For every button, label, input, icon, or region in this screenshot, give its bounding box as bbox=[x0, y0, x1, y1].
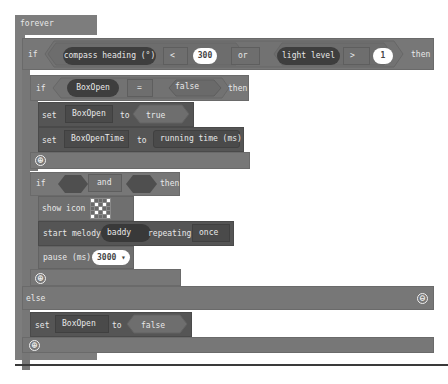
workspace-divider bbox=[15, 364, 448, 366]
else-to-label: to bbox=[112, 321, 122, 331]
led-cell bbox=[103, 203, 106, 206]
led-cell bbox=[91, 199, 94, 202]
led-cell bbox=[103, 211, 106, 214]
compass-threshold-input[interactable]: 300 bbox=[193, 48, 217, 64]
to-label-2: to bbox=[137, 136, 147, 146]
melody-dropdown[interactable]: baddy bbox=[101, 224, 151, 242]
add-branch-icon-2[interactable]: ⊕ bbox=[35, 273, 46, 284]
led-cell bbox=[103, 207, 106, 210]
led-cell bbox=[103, 215, 106, 218]
to-label: to bbox=[120, 111, 130, 121]
led-cell bbox=[99, 207, 102, 210]
skull-pattern-icon[interactable] bbox=[90, 198, 111, 219]
start-melody-label: start melody bbox=[43, 229, 101, 239]
set-label-2: set bbox=[42, 136, 56, 146]
led-cell bbox=[91, 203, 94, 206]
led-cell bbox=[107, 203, 110, 206]
led-cell bbox=[99, 215, 102, 218]
equals-operator-dropdown[interactable]: = bbox=[127, 79, 153, 97]
inner-if-2-footer bbox=[30, 269, 181, 286]
set-label: set bbox=[42, 111, 56, 121]
outer-then-label: then bbox=[411, 50, 430, 60]
led-cell bbox=[95, 203, 98, 206]
or-operator-dropdown[interactable]: or bbox=[231, 47, 260, 65]
else-false-value: false bbox=[141, 321, 165, 331]
pause-duration-dropdown[interactable]: 3000 ▾ bbox=[92, 250, 130, 265]
compass-heading-reporter[interactable]: compass heading (°) bbox=[63, 47, 156, 65]
inner-if-1-then: then bbox=[228, 84, 247, 94]
outer-if-label: if bbox=[28, 50, 38, 60]
boxopen-variable[interactable]: BoxOpen bbox=[67, 79, 119, 97]
light-threshold-input[interactable]: 1 bbox=[373, 48, 393, 64]
led-cell bbox=[91, 207, 94, 210]
forever-label: forever bbox=[20, 19, 54, 29]
pause-label: pause (ms) bbox=[43, 253, 91, 263]
remove-else-icon[interactable]: ⊖ bbox=[417, 293, 428, 304]
led-cell bbox=[99, 203, 102, 206]
led-cell bbox=[95, 211, 98, 214]
led-cell bbox=[107, 211, 110, 214]
true-value: true bbox=[146, 111, 165, 121]
inner-if-1-footer bbox=[30, 152, 250, 169]
add-branch-icon[interactable]: ⊕ bbox=[35, 155, 46, 166]
else-bar bbox=[22, 286, 434, 310]
led-cell bbox=[95, 207, 98, 210]
led-cell bbox=[103, 199, 106, 202]
pause-duration-value: 3000 bbox=[97, 253, 116, 262]
lt-operator-dropdown[interactable]: < bbox=[163, 47, 188, 65]
else-boxopen-var-dropdown[interactable]: BoxOpen bbox=[55, 315, 109, 333]
led-cell bbox=[91, 211, 94, 214]
led-cell bbox=[107, 199, 110, 202]
led-cell bbox=[95, 199, 98, 202]
and-operator-dropdown[interactable]: and bbox=[88, 174, 122, 192]
inner-if-2-label: if bbox=[36, 179, 46, 189]
boxopentime-var-dropdown[interactable]: BoxOpenTime bbox=[64, 130, 129, 148]
running-time-reporter[interactable]: running time (ms) bbox=[153, 130, 240, 148]
led-cell bbox=[99, 199, 102, 202]
gt-operator-dropdown[interactable]: > bbox=[343, 47, 370, 65]
led-cell bbox=[99, 211, 102, 214]
false-value[interactable]: false bbox=[169, 79, 213, 97]
repeating-label: repeating bbox=[148, 229, 191, 239]
repeat-mode-dropdown[interactable]: once bbox=[192, 224, 230, 242]
light-level-reporter[interactable]: light level bbox=[277, 47, 340, 65]
outer-if-rail bbox=[22, 70, 30, 370]
dropdown-arrow-icon: ▾ bbox=[121, 253, 126, 262]
led-cell bbox=[95, 215, 98, 218]
led-cell bbox=[107, 215, 110, 218]
led-cell bbox=[91, 215, 94, 218]
outer-if-footer bbox=[22, 337, 434, 353]
boxopen-var-dropdown[interactable]: BoxOpen bbox=[65, 105, 113, 123]
inner-if-1-label: if bbox=[36, 84, 46, 94]
inner-if-2-then: then bbox=[160, 179, 179, 189]
show-icon-label: show icon bbox=[42, 204, 85, 214]
led-cell bbox=[107, 207, 110, 210]
else-set-label: set bbox=[35, 321, 49, 331]
add-else-branch-icon[interactable]: ⊕ bbox=[29, 340, 40, 351]
else-label: else bbox=[26, 294, 45, 304]
